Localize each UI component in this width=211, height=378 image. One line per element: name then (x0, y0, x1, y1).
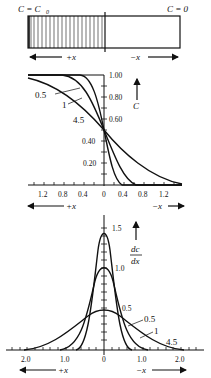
y-tick-1.5: 1.5 (112, 224, 122, 233)
hatched-region (31, 16, 102, 48)
diffusion-diagram: C = C 0 C = 0 +x −x (0, 0, 211, 378)
right-concentration-label: C = 0 (167, 4, 189, 14)
curve-label-4.5: 4.5 (73, 115, 85, 125)
x-tick-left-1.0: 1.0 (60, 355, 70, 364)
bar-outline (28, 16, 180, 48)
left-concentration-label: C = C (18, 4, 42, 14)
y-tick-1.00: 1.00 (109, 71, 122, 80)
y-tick-0.20: 0.20 (83, 159, 96, 168)
gradient-label-0.5-b: 0.5 (144, 314, 156, 324)
x-tick-left-0.4: 0.4 (78, 190, 88, 199)
gradient-label-4.5: 4.5 (166, 337, 178, 347)
concentration-plot: 1.00 0.80 0.60 0.40 0.20 C 1.2 0.8 0.4 0… (28, 71, 184, 211)
dcdx-label-denominator: dx (131, 256, 140, 266)
x-tick-right-1.0: 1.0 (137, 355, 147, 364)
gradient-label-0.5-a: 0.5 (122, 304, 132, 313)
curve-4.5 (28, 78, 182, 184)
x-tick-left-0.8: 0.8 (58, 190, 68, 199)
gradient-label-1: 1 (154, 326, 159, 336)
y-tick-1.0: 1.0 (115, 264, 125, 273)
y-tick-0.40: 0.40 (82, 137, 95, 146)
minus-x-label: −x (152, 201, 162, 211)
minus-x-label: −x (136, 365, 146, 375)
y-tick-0.80: 0.80 (109, 93, 122, 102)
x-tick-left-1.2: 1.2 (38, 190, 48, 199)
c-axis-label: C (133, 101, 140, 111)
x-tick-zero: 0 (102, 355, 106, 364)
plus-x-label: +x (66, 52, 76, 62)
dcdx-label-numerator: dc (131, 244, 140, 254)
gradient-plot: 1.5 1.0 dc dx 2.0 1.0 0 1.0 2.0 (6, 215, 204, 375)
y-tick-0.60: 0.60 (109, 115, 122, 124)
x-tick-zero: 0 (102, 190, 106, 199)
curve-label-1: 1 (62, 100, 67, 110)
x-tick-right-0.8: 0.8 (138, 190, 148, 199)
plus-x-label: +x (66, 201, 76, 211)
minus-x-label: −x (130, 52, 140, 62)
curve-label-0.5: 0.5 (35, 90, 47, 100)
x-tick-left-2.0: 2.0 (21, 355, 31, 364)
x-tick-right-0.4: 0.4 (118, 190, 128, 199)
diffusion-couple-bar: C = C 0 C = 0 +x −x (18, 4, 189, 62)
x-tick-right-1.2: 1.2 (159, 190, 169, 199)
x-tick-right-2.0: 2.0 (175, 355, 185, 364)
plus-x-label: +x (58, 365, 68, 375)
left-concentration-subscript: 0 (46, 9, 49, 15)
